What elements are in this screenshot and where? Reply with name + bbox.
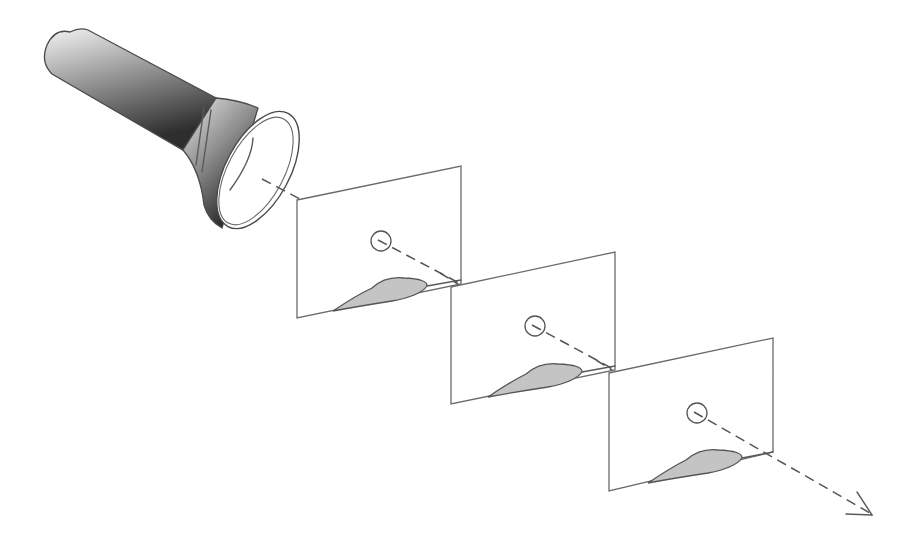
flashlight-body — [44, 29, 216, 150]
section-panel-3 — [609, 338, 870, 513]
section-panel-1 — [297, 166, 461, 318]
flashlight-icon — [44, 29, 316, 242]
section-panel-2 — [451, 252, 615, 404]
flashlight-airfoil-diagram — [0, 0, 923, 548]
